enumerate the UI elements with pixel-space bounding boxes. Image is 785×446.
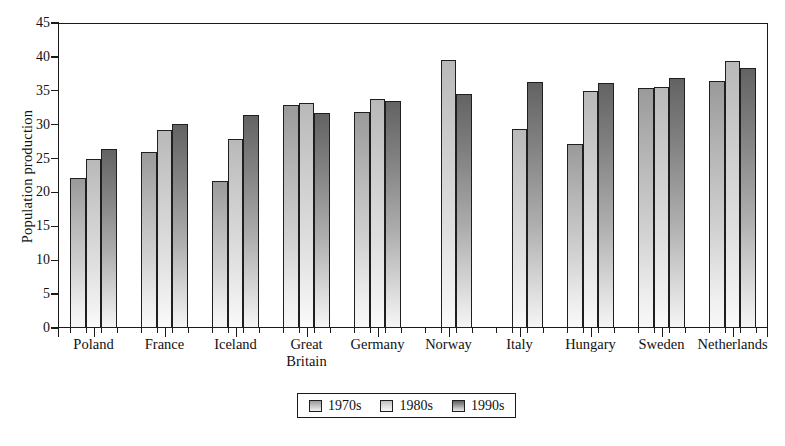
x-tick-minor xyxy=(756,328,757,333)
bar-netherlands-1980s xyxy=(725,61,741,328)
bar-germany-1970s xyxy=(354,112,370,328)
bar-poland-1980s xyxy=(86,159,102,328)
x-axis-labels: PolandFranceIcelandGreat BritainGermanyN… xyxy=(58,336,768,382)
x-tick-minor xyxy=(709,328,710,333)
x-tick-minor xyxy=(614,328,615,333)
x-tick-minor xyxy=(685,328,686,333)
x-tick-minor xyxy=(441,328,442,333)
x-tick-minor xyxy=(496,328,497,333)
x-tick-minor xyxy=(401,328,402,333)
x-tick-minor xyxy=(212,328,213,333)
bar-italy-1990s xyxy=(527,82,543,328)
bar-germany-1990s xyxy=(385,101,401,328)
bar-iceland-1980s xyxy=(228,139,244,328)
x-tick-minor xyxy=(740,328,741,333)
bar-great-britain-1990s xyxy=(314,113,330,328)
bar-great-britain-1970s xyxy=(283,105,299,328)
x-tick-minor xyxy=(512,328,513,333)
x-tick-minor xyxy=(425,328,426,333)
x-tick-minor xyxy=(228,328,229,333)
x-tick-minor xyxy=(259,328,260,333)
legend-item-1990s[interactable]: 1990s xyxy=(452,398,504,414)
bar-france-1990s xyxy=(172,124,188,328)
legend-label: 1990s xyxy=(471,398,504,414)
x-tick-minor xyxy=(188,328,189,333)
bar-france-1970s xyxy=(141,152,157,328)
bars-layer xyxy=(58,23,768,328)
x-tick-minor xyxy=(472,328,473,333)
x-tick-minor xyxy=(157,328,158,333)
legend-label: 1970s xyxy=(328,398,361,414)
x-tick-minor xyxy=(86,328,87,333)
bar-hungary-1980s xyxy=(583,91,599,328)
bar-norway-1980s xyxy=(441,60,457,328)
x-tick-minor xyxy=(117,328,118,333)
bar-sweden-1990s xyxy=(669,78,685,328)
x-tick-minor xyxy=(283,328,284,333)
legend-swatch-icon-1990s xyxy=(452,400,465,412)
x-tick-minor xyxy=(354,328,355,333)
x-tick-minor xyxy=(330,328,331,333)
bar-iceland-1990s xyxy=(243,115,259,328)
x-tick-minor xyxy=(725,328,726,333)
legend-swatch-icon-1970s xyxy=(309,400,322,412)
x-tick-minor xyxy=(456,328,457,333)
legend-item-1980s[interactable]: 1980s xyxy=(380,398,432,414)
x-tick-minor xyxy=(598,328,599,333)
x-tick-minor xyxy=(583,328,584,333)
x-tick-minor xyxy=(370,328,371,333)
x-tick-minor xyxy=(314,328,315,333)
x-axis-label-netherlands: Netherlands xyxy=(685,336,780,353)
bar-chart: Population production 051015202530354045… xyxy=(0,0,785,446)
legend-swatch-icon-1980s xyxy=(380,400,393,412)
bar-france-1980s xyxy=(157,130,173,328)
x-tick-minor xyxy=(669,328,670,333)
bar-iceland-1970s xyxy=(212,181,228,328)
bar-sweden-1970s xyxy=(638,88,654,328)
x-tick-minor xyxy=(638,328,639,333)
x-tick-minor xyxy=(141,328,142,333)
bar-germany-1980s xyxy=(370,99,386,328)
legend-item-1970s[interactable]: 1970s xyxy=(309,398,361,414)
x-tick-minor xyxy=(543,328,544,333)
bar-poland-1970s xyxy=(70,178,86,328)
x-tick-minor xyxy=(527,328,528,333)
x-tick-minor xyxy=(654,328,655,333)
bar-netherlands-1970s xyxy=(709,81,725,328)
bar-norway-1990s xyxy=(456,94,472,329)
bar-hungary-1990s xyxy=(598,83,614,328)
x-tick-minor xyxy=(243,328,244,333)
x-tick-minor xyxy=(385,328,386,333)
x-tick-minor xyxy=(101,328,102,333)
bar-italy-1980s xyxy=(512,129,528,328)
legend: 1970s1980s1990s xyxy=(297,393,516,418)
bar-netherlands-1990s xyxy=(740,68,756,328)
y-tick-label: 0 xyxy=(18,320,50,336)
y-axis-title: Population production xyxy=(19,57,36,297)
bar-poland-1990s xyxy=(101,149,117,328)
x-tick-minor xyxy=(70,328,71,333)
bar-sweden-1980s xyxy=(654,87,670,328)
bar-great-britain-1980s xyxy=(299,103,315,328)
legend-label: 1980s xyxy=(399,398,432,414)
x-tick-minor xyxy=(567,328,568,333)
x-tick-minor xyxy=(172,328,173,333)
y-tick-label: 45 xyxy=(18,15,50,31)
x-tick-minor xyxy=(299,328,300,333)
bar-hungary-1970s xyxy=(567,144,583,328)
